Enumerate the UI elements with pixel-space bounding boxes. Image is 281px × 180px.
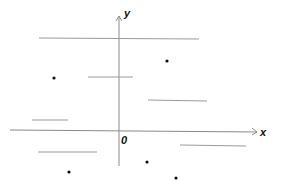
- point-3: [145, 160, 148, 163]
- segment-5: [180, 145, 246, 146]
- point-5: [174, 176, 177, 179]
- point-2: [52, 76, 55, 79]
- horizontal-segments: [32, 38, 246, 152]
- y-axis-label: y: [123, 7, 131, 19]
- point-4: [67, 170, 70, 173]
- segment-1: [39, 38, 199, 39]
- origin-label: 0: [121, 134, 128, 146]
- point-1: [165, 59, 168, 62]
- x-axis: [10, 128, 257, 135]
- coordinate-plane: x y 0: [0, 0, 281, 180]
- x-axis-label: x: [259, 126, 267, 138]
- segment-3: [148, 100, 207, 101]
